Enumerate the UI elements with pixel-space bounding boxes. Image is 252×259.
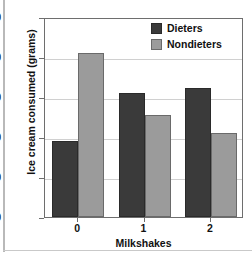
bar-dieters-2 bbox=[185, 88, 211, 217]
y-tick-label: 0 bbox=[0, 213, 1, 223]
y-tick-label: 50 bbox=[0, 173, 1, 183]
bar-dieters-0 bbox=[52, 141, 78, 217]
legend-item-dieters: Dieters bbox=[151, 21, 222, 35]
y-tick-label: 150 bbox=[0, 93, 1, 103]
legend-label-dieters: Dieters bbox=[167, 22, 203, 34]
y-axis-title: Ice cream consumed (grams) bbox=[25, 2, 37, 202]
x-tick-label: 2 bbox=[190, 222, 230, 234]
legend-label-nondieters: Nondieters bbox=[167, 38, 222, 50]
bar-nondieters-0 bbox=[78, 53, 104, 217]
page-rule-left bbox=[3, 0, 5, 252]
bar-dieters-1 bbox=[119, 93, 145, 217]
y-tick-label: 100 bbox=[0, 133, 1, 143]
x-tick-label: 1 bbox=[124, 222, 164, 234]
bar-chart-figure: Ice cream consumed (grams) 0501001502002… bbox=[0, 0, 252, 259]
gridline bbox=[45, 59, 242, 60]
legend-swatch-icon-dieters bbox=[151, 23, 162, 34]
legend-item-nondieters: Nondieters bbox=[151, 37, 222, 51]
x-tick-mark bbox=[210, 218, 211, 222]
legend-swatch-icon-nondieters bbox=[151, 39, 162, 50]
bar-nondieters-1 bbox=[145, 115, 171, 217]
x-tick-label: 0 bbox=[57, 222, 97, 234]
page-rule-bottom bbox=[3, 250, 252, 251]
legend: Dieters Nondieters bbox=[151, 21, 222, 53]
bar-nondieters-2 bbox=[211, 133, 237, 217]
x-axis-title: Milkshakes bbox=[44, 237, 243, 249]
y-tick-label: 200 bbox=[0, 53, 1, 63]
y-tick-mark bbox=[39, 218, 44, 219]
x-tick-mark bbox=[144, 218, 145, 222]
x-tick-mark bbox=[77, 218, 78, 222]
y-tick-label: 250 bbox=[0, 13, 1, 23]
